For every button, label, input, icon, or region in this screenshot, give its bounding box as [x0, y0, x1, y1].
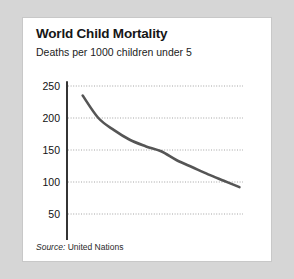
source-label: Source:	[36, 242, 65, 252]
line-chart: 050100150200250195019601970198019902000	[23, 60, 271, 240]
y-axis-tick-100: 100	[42, 176, 60, 188]
chart-card: World Child Mortality Deaths per 1000 ch…	[22, 17, 272, 262]
chart-source: Source: United Nations	[36, 242, 123, 252]
screenshot-root: World Child Mortality Deaths per 1000 ch…	[0, 0, 294, 279]
page-title: World Child Mortality	[36, 26, 167, 41]
source-value: United Nations	[65, 242, 123, 252]
y-axis-tick-150: 150	[42, 144, 60, 156]
y-axis-tick-250: 250	[42, 80, 60, 92]
y-axis-tick-200: 200	[42, 112, 60, 124]
data-series-line	[83, 96, 240, 188]
chart-subtitle: Deaths per 1000 children under 5	[36, 46, 192, 58]
y-axis-tick-50: 50	[48, 208, 60, 220]
chart-plot-area: 050100150200250195019601970198019902000	[23, 60, 271, 240]
